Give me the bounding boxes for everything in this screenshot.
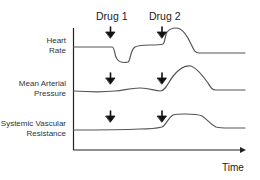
- drug1-hr-arrow-icon: [106, 27, 115, 38]
- drug2-map-arrow-icon: [158, 73, 167, 84]
- x-axis-arrowhead-icon: [240, 147, 246, 153]
- drug1-map-arrow-icon: [106, 73, 115, 84]
- drug2-svr-arrow-icon: [158, 111, 167, 122]
- axes: [74, 28, 245, 150]
- diagram-graphics: [0, 0, 260, 180]
- drug1-svr-arrow-icon: [106, 111, 115, 122]
- diagram-canvas: Drug 1 Drug 2 Heart Rate Mean Arterial P…: [0, 0, 260, 180]
